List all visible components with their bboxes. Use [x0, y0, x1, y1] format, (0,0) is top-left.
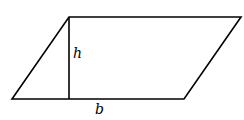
parallelogram-outline [12, 17, 241, 99]
base-label: b [95, 101, 104, 117]
parallelogram-diagram: h b [0, 0, 244, 120]
height-label: h [73, 45, 82, 61]
